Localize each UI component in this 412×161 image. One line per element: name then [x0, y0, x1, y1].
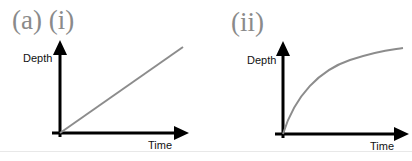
graph-ii-curve — [283, 48, 403, 134]
graph-ii — [275, 41, 409, 141]
graph-ii-y-label: Depth — [247, 55, 276, 66]
graph-i-y-arrow-icon — [53, 40, 67, 55]
graph-i-curve — [60, 47, 183, 133]
graph-i-x-label: Time — [148, 140, 172, 151]
divider — [0, 151, 412, 152]
graph-i-x-arrow-icon — [174, 126, 189, 140]
graph-i-y-label: Depth — [23, 53, 52, 64]
graph-ii-x-arrow-icon — [394, 127, 409, 141]
graphs-canvas — [0, 0, 412, 161]
graph-i — [52, 40, 189, 140]
graph-ii-y-arrow-icon — [276, 41, 290, 56]
